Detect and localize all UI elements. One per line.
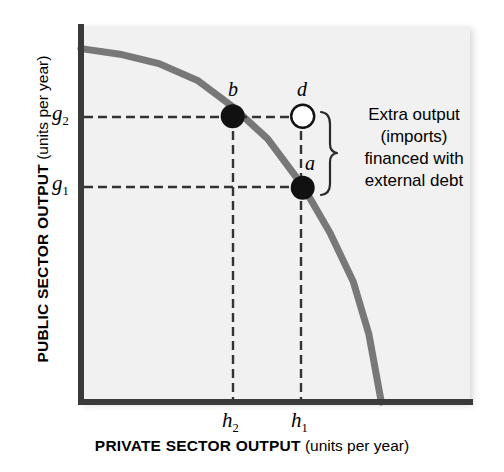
x-axis-title-units: (units per year) bbox=[305, 437, 409, 454]
ppf-chart-figure: b d a g2 g1 h2 h1 Extra output (imports)… bbox=[0, 0, 504, 472]
y-tick-label-g1: g1 bbox=[52, 171, 69, 199]
annotation-line-2: (imports) bbox=[338, 126, 490, 148]
y-axis-line bbox=[78, 24, 84, 405]
annotation-line-3: financed with bbox=[338, 148, 490, 170]
x-axis-title: PRIVATE SECTOR OUTPUT (units per year) bbox=[0, 437, 504, 455]
data-point-b[interactable] bbox=[221, 104, 245, 128]
x-tick-label-h1: h1 bbox=[291, 408, 308, 436]
y-tick-label-g2: g2 bbox=[52, 101, 69, 129]
point-label-d: d bbox=[297, 78, 307, 101]
x-tick-label-h2: h2 bbox=[222, 408, 239, 436]
x-axis-line bbox=[78, 399, 473, 405]
point-label-b: b bbox=[228, 78, 238, 101]
data-point-a[interactable] bbox=[291, 176, 315, 200]
brace-annotation-icon bbox=[321, 112, 337, 195]
annotation-line-1: Extra output bbox=[338, 104, 490, 126]
y-axis-title-main: PUBLIC SECTOR OUTPUT bbox=[34, 164, 51, 362]
annotation-line-4: external debt bbox=[338, 170, 490, 192]
extra-output-annotation: Extra output (imports) financed with ext… bbox=[338, 104, 490, 192]
data-point-d[interactable] bbox=[291, 105, 314, 128]
y-axis-title-units: (units per year) bbox=[34, 56, 51, 160]
ppf-curve bbox=[81, 49, 381, 402]
point-label-a: a bbox=[305, 152, 315, 175]
y-axis-title: PUBLIC SECTOR OUTPUT (units per year) bbox=[34, 14, 52, 404]
x-axis-title-main: PRIVATE SECTOR OUTPUT bbox=[95, 437, 301, 454]
